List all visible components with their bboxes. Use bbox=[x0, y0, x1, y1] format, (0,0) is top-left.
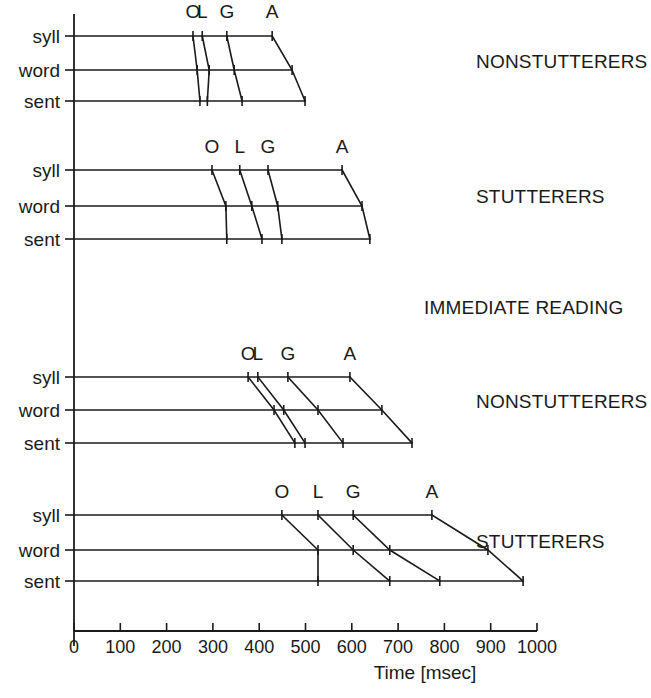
figure-container: syllwordsentOLGANONSTUTTERERSsyllwordsen… bbox=[0, 0, 651, 698]
event-label-O: O bbox=[205, 136, 220, 157]
event-path-L bbox=[202, 36, 209, 101]
event-label-L: L bbox=[234, 136, 245, 157]
event-label-L: L bbox=[253, 343, 264, 364]
group-label-p3: NONSTUTTERERS bbox=[476, 391, 648, 412]
event-path-L bbox=[240, 170, 262, 239]
row-label-word: word bbox=[18, 400, 60, 421]
event-label-O: O bbox=[274, 481, 289, 502]
x-tick-label-400: 400 bbox=[244, 637, 274, 657]
event-path-G bbox=[227, 36, 242, 101]
event-path-A bbox=[342, 170, 370, 239]
event-path-O bbox=[212, 170, 227, 239]
x-tick-label-700: 700 bbox=[383, 637, 413, 657]
reading-latency-chart: syllwordsentOLGANONSTUTTERERSsyllwordsen… bbox=[0, 0, 651, 698]
group-label-p1: NONSTUTTERERS bbox=[476, 51, 648, 72]
event-label-L: L bbox=[197, 1, 208, 22]
event-label-A: A bbox=[344, 343, 357, 364]
event-label-A: A bbox=[426, 481, 439, 502]
event-path-G bbox=[353, 515, 440, 581]
row-label-sent: sent bbox=[24, 433, 61, 454]
x-tick-label-100: 100 bbox=[105, 637, 135, 657]
row-label-word: word bbox=[18, 196, 60, 217]
event-label-G: G bbox=[219, 1, 234, 22]
x-tick-label-0: 0 bbox=[69, 637, 79, 657]
row-label-syll: syll bbox=[33, 505, 60, 526]
event-path-G bbox=[268, 170, 282, 239]
event-label-G: G bbox=[281, 343, 296, 364]
event-label-G: G bbox=[346, 481, 361, 502]
row-label-sent: sent bbox=[24, 229, 61, 250]
x-tick-label-600: 600 bbox=[337, 637, 367, 657]
row-label-syll: syll bbox=[33, 367, 60, 388]
group-label-p2: STUTTERERS bbox=[476, 186, 605, 207]
x-tick-label-200: 200 bbox=[152, 637, 182, 657]
event-path-O bbox=[193, 36, 200, 101]
row-label-syll: syll bbox=[33, 160, 60, 181]
event-path-O bbox=[282, 515, 318, 581]
condition-label: IMMEDIATE READING bbox=[424, 297, 623, 318]
x-tick-label-900: 900 bbox=[476, 637, 506, 657]
event-path-A bbox=[272, 36, 305, 101]
x-tick-label-300: 300 bbox=[198, 637, 228, 657]
row-label-sent: sent bbox=[24, 91, 61, 112]
x-axis-title: Time [msec] bbox=[374, 662, 477, 683]
event-label-L: L bbox=[313, 481, 324, 502]
event-label-G: G bbox=[261, 136, 276, 157]
row-label-sent: sent bbox=[24, 571, 61, 592]
x-tick-label-1000: 1000 bbox=[517, 637, 557, 657]
row-label-syll: syll bbox=[33, 26, 60, 47]
event-label-A: A bbox=[266, 1, 279, 22]
row-label-word: word bbox=[18, 60, 60, 81]
row-label-word: word bbox=[18, 540, 60, 561]
group-label-p4: STUTTERERS bbox=[476, 531, 605, 552]
event-label-A: A bbox=[336, 136, 349, 157]
x-tick-label-500: 500 bbox=[290, 637, 320, 657]
x-tick-label-800: 800 bbox=[429, 637, 459, 657]
